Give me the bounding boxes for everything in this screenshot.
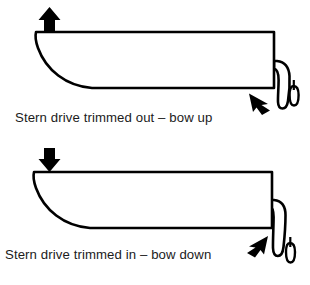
boat-hull-profile-icon [34,172,272,228]
stern-drive-unit-icon [274,61,299,109]
caption-trimmed-in: Stern drive trimmed in – bow down [5,247,211,262]
diagram-trimmed-in [34,148,295,263]
arrow-down-icon [39,148,61,172]
arrow-up-icon [39,7,61,31]
diagram-trimmed-out [36,7,299,115]
trim-diagram-canvas [0,0,310,285]
stern-drive-trim-figure: Stern drive trimmed out – bow up Stern d… [0,0,310,285]
caption-trimmed-out: Stern drive trimmed out – bow up [15,110,212,125]
boat-hull-profile-icon [36,32,274,88]
arrow-left-icon [247,236,268,258]
arrow-right-icon [249,94,270,116]
